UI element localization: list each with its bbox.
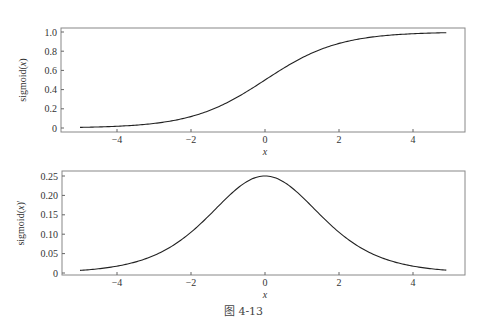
x-tick-label: −4: [112, 134, 123, 145]
axes-frame: [62, 171, 465, 275]
y-tick-label: 0.25: [41, 171, 59, 182]
series-line: [80, 33, 446, 128]
x-tick-label: −2: [186, 134, 197, 145]
y-tick-label: 0.6: [45, 65, 58, 76]
x-tick-label: 4: [411, 277, 416, 288]
x-axis-label: x: [262, 146, 268, 157]
figure: −4−202400.20.40.60.81.0xsigmoid(x) −4−20…: [0, 0, 487, 323]
y-axis-label: sigmoid(x)': [15, 200, 27, 245]
x-axis-label: x: [262, 289, 268, 300]
x-tick-label: 0: [263, 134, 268, 145]
axes-frame: [61, 28, 465, 132]
y-tick-label: 0.20: [41, 190, 59, 201]
x-tick-label: −2: [186, 277, 197, 288]
x-tick-label: 0: [263, 277, 268, 288]
y-tick-label: 0: [52, 123, 57, 134]
sigmoid-derivative-plot: −4−202400.050.100.150.200.25xsigmoid(x)': [15, 171, 465, 301]
series-line: [80, 176, 446, 270]
x-tick-label: 2: [337, 277, 342, 288]
y-tick-label: 0.15: [41, 209, 59, 220]
y-tick-label: 0.05: [41, 248, 59, 259]
x-tick-label: −4: [112, 277, 123, 288]
y-axis-label: sigmoid(x): [17, 58, 29, 101]
y-tick-label: 0.8: [45, 46, 58, 57]
y-tick-label: 0.2: [45, 103, 58, 114]
figure-caption: 图 4-13: [0, 302, 487, 318]
x-tick-label: 4: [411, 134, 416, 145]
y-tick-label: 0.4: [45, 84, 58, 95]
y-tick-label: 1.0: [45, 27, 58, 38]
sigmoid-plot: −4−202400.20.40.60.81.0xsigmoid(x): [17, 27, 465, 158]
y-tick-label: 0.10: [41, 229, 59, 240]
y-tick-label: 0: [53, 268, 58, 279]
x-tick-label: 2: [337, 134, 342, 145]
